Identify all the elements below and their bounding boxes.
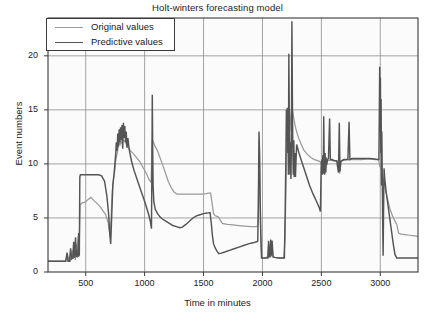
y-tick-label: 0 xyxy=(16,266,38,276)
y-tick-label: 5 xyxy=(16,212,38,222)
x-tick-label: 3000 xyxy=(363,278,397,288)
x-tick-label: 2500 xyxy=(304,278,338,288)
legend-label-original: Original values xyxy=(91,21,154,32)
legend-entry-predictive: Predictive values xyxy=(47,35,176,51)
chart-legend: Original values Predictive values xyxy=(46,18,175,51)
x-tick-label: 1500 xyxy=(187,278,221,288)
y-tick-label: 10 xyxy=(16,158,38,168)
x-tick-label: 2000 xyxy=(245,278,279,288)
legend-entry-original: Original values xyxy=(47,20,176,36)
y-tick-label: 15 xyxy=(16,104,38,114)
x-tick-label: 500 xyxy=(69,278,103,288)
x-tick-label: 1000 xyxy=(128,278,162,288)
legend-label-predictive: Predictive values xyxy=(91,36,163,47)
legend-swatch-original-icon xyxy=(55,27,83,28)
chart-figure: Holt-winters forecasting model Event num… xyxy=(0,0,435,317)
y-tick-label: 20 xyxy=(16,50,38,60)
legend-swatch-predictive-icon xyxy=(55,42,83,43)
